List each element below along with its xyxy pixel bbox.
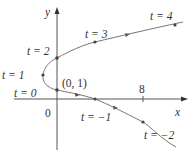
label-t-minus-2: t = −2 bbox=[144, 129, 174, 141]
x-axis-arrow-icon bbox=[181, 97, 188, 102]
x-tick-label-8: 8 bbox=[139, 83, 145, 95]
label-t-minus-1: t = −1 bbox=[81, 111, 111, 123]
label-t-4: t = 4 bbox=[150, 10, 173, 22]
y-axis-arrow-icon bbox=[55, 7, 60, 14]
y-axis-label: y bbox=[44, 6, 51, 19]
point-t-3 bbox=[93, 40, 96, 43]
x-axis-label: x bbox=[174, 106, 181, 118]
origin-label: 0 bbox=[45, 107, 51, 119]
label-t-3: t = 3 bbox=[85, 28, 108, 40]
point-t-minus-1 bbox=[93, 97, 96, 100]
point-t-2 bbox=[55, 56, 59, 60]
point-t-4 bbox=[173, 23, 176, 26]
point-t-1 bbox=[41, 73, 44, 76]
label-t-1: t = 1 bbox=[2, 69, 24, 81]
label-t-2: t = 2 bbox=[27, 45, 50, 57]
point-t-minus-2 bbox=[141, 120, 144, 123]
direction-arrow-icon bbox=[75, 93, 80, 97]
point-label-0-1: (0, 1) bbox=[62, 77, 87, 90]
label-t-0: t = 0 bbox=[14, 87, 37, 99]
parametric-curve-diagram: y x 0 8 (0, 1) t = 4 t = 3 t = 2 t = 1 t… bbox=[0, 0, 191, 156]
point-t-0 bbox=[55, 88, 59, 92]
